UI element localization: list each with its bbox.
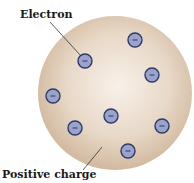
electron bbox=[155, 119, 169, 133]
electron bbox=[128, 33, 142, 47]
electron bbox=[104, 109, 118, 123]
electron-label: Electron bbox=[20, 8, 72, 21]
positive-charge-label: Positive charge bbox=[2, 168, 96, 181]
plum-pudding-diagram bbox=[0, 0, 194, 183]
electron bbox=[78, 54, 92, 68]
positive-sphere bbox=[38, 16, 192, 170]
electron bbox=[46, 89, 60, 103]
electron bbox=[121, 144, 135, 158]
electron bbox=[145, 68, 159, 82]
electron bbox=[68, 121, 82, 135]
